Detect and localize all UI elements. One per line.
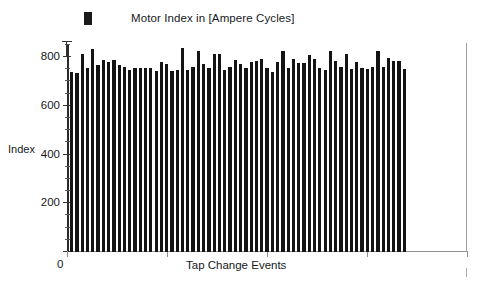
bar [392,61,395,252]
bar [265,68,268,252]
bar [313,59,316,253]
bar [128,70,131,252]
bar [118,65,121,252]
bar [297,63,300,252]
bar [255,61,258,252]
bar [149,68,152,252]
bar [382,67,385,252]
legend-label: Motor Index in [Ampere Cycles] [131,12,294,24]
bar [318,68,321,252]
bar [376,51,379,252]
bar [86,68,89,252]
bar [355,62,358,252]
y-tick-label: 400 [24,148,60,160]
bar [308,55,311,252]
bar [202,64,205,252]
bar [144,68,147,252]
bar [191,67,194,252]
chart-figure: Motor Index in [Ampere Cycles] Index Tap… [0,0,497,289]
bar [239,64,242,252]
bar [155,71,158,252]
bar [403,69,406,252]
x-axis-origin-label: 0 [57,258,63,270]
bar [260,59,263,252]
bar [228,67,231,252]
bar [218,54,221,252]
bar [387,58,390,252]
bar [271,72,274,252]
bar [197,51,200,252]
right-tick-stub [466,268,467,277]
bar [91,49,94,252]
bar [133,68,136,252]
bar [324,70,327,252]
bar [281,51,284,252]
x-tick [467,251,468,257]
bar [302,63,305,252]
bar [287,68,290,252]
bar [360,68,363,252]
bar [165,64,168,252]
bar [176,70,179,252]
bar [75,73,78,252]
bar [345,54,348,252]
bar [339,67,342,252]
bar [70,72,73,252]
bar [276,62,279,252]
bar [170,71,173,252]
bar [292,59,295,252]
bar [112,60,115,252]
bar [186,70,189,252]
bar [244,68,247,252]
plot-area [67,43,467,252]
y-tick-label: 800 [24,50,60,62]
y-tick-label: 200 [24,196,60,208]
bar [371,67,374,252]
bar [223,70,226,252]
bar [181,48,184,252]
bar [123,67,126,252]
chart-legend: Motor Index in [Ampere Cycles] [84,9,294,27]
bar-series [67,43,467,252]
bar [397,61,400,252]
bar [96,65,99,252]
bar [366,69,369,252]
bar [207,68,210,252]
bar [139,68,142,252]
bar [160,62,163,252]
bar [102,60,105,252]
legend-swatch-icon [84,12,92,25]
bar [81,54,84,252]
bar [213,54,216,252]
y-tick-label: 600 [24,99,60,111]
x-axis-title: Tap Change Events [186,259,286,271]
bar [334,61,337,252]
bar [329,51,332,252]
bar [107,62,110,252]
bar [350,69,353,252]
bar [234,60,237,252]
bar [250,62,253,252]
